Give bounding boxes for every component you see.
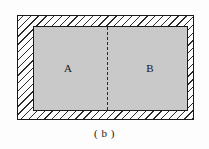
figure-panel-b: A B ( b ): [0, 0, 209, 149]
dashed-divider-line: [107, 27, 108, 110]
region-label-a: A: [58, 63, 78, 74]
figure-caption: ( b ): [0, 127, 209, 140]
shaded-inner-rectangle: [33, 26, 188, 111]
region-label-b: B: [140, 63, 160, 74]
